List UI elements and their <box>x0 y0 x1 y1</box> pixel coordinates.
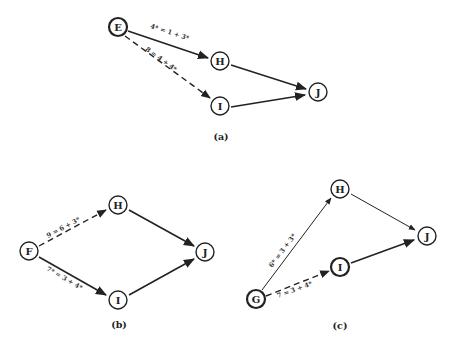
node-h: H <box>211 52 229 70</box>
edge-h-j <box>351 194 415 230</box>
diagram-a: 4* = 1 + 3* 8 = 4 + 4* E H I J (a) <box>109 18 327 142</box>
svg-text:H: H <box>335 184 344 195</box>
edge-label-g-i: 7 = 3 + 4* <box>276 280 314 300</box>
diagram-c: 6* = 3 + 3* 7 = 3 + 4* G H I J (c) <box>247 180 436 331</box>
edge-label-f-h: 9 = 6 + 3* <box>45 215 82 240</box>
edge-f-i <box>39 257 106 295</box>
edge-label-e-i: 8 = 4 + 4* <box>144 45 179 74</box>
edge-i-j <box>231 95 305 107</box>
edge-f-h <box>39 210 106 246</box>
node-f: F <box>20 242 38 260</box>
svg-text:E: E <box>114 22 122 33</box>
edge-h-j <box>129 210 194 246</box>
edge-g-h <box>262 198 331 290</box>
svg-text:H: H <box>113 200 122 211</box>
node-g: G <box>247 290 265 308</box>
caption-a: (a) <box>213 131 228 142</box>
node-j: J <box>418 227 436 245</box>
svg-text:I: I <box>218 101 223 112</box>
node-j: J <box>196 243 214 261</box>
caption-c: (c) <box>333 320 348 331</box>
svg-text:I: I <box>338 262 343 273</box>
node-h: H <box>331 180 349 198</box>
svg-text:H: H <box>215 56 224 67</box>
node-i: I <box>331 258 349 276</box>
svg-text:I: I <box>116 295 121 306</box>
svg-text:F: F <box>25 246 32 257</box>
edge-i-j <box>129 259 194 295</box>
edge-h-j <box>231 65 306 89</box>
svg-text:J: J <box>202 247 208 258</box>
svg-text:J: J <box>315 87 321 98</box>
node-i: I <box>109 291 127 309</box>
node-i: I <box>211 97 229 115</box>
diagram-b: 9 = 6 + 3* 7* = 3 + 4* F H I J (b) <box>20 196 214 330</box>
caption-b: (b) <box>111 319 127 330</box>
svg-text:G: G <box>252 294 261 305</box>
node-j: J <box>309 83 327 101</box>
svg-text:J: J <box>424 231 430 242</box>
node-h: H <box>109 196 127 214</box>
network-diagrams: 4* = 1 + 3* 8 = 4 + 4* E H I J (a) 9 = 6… <box>0 0 455 359</box>
edge-label-g-h: 6* = 3 + 3* <box>267 232 298 269</box>
edge-i-j <box>351 240 414 263</box>
node-e: E <box>109 18 127 36</box>
